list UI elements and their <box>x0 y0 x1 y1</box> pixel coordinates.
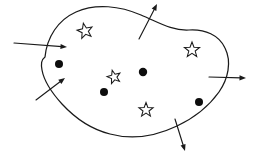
flux-arrow-outbound-right-head <box>239 75 246 80</box>
flux-arrow-inbound-lower-left <box>36 78 65 100</box>
flux-arrow-inbound-left-head <box>60 44 67 49</box>
charge-star-3 <box>107 70 120 83</box>
charge-dot-2 <box>139 68 147 76</box>
flux-arrow-inbound-lower-left-head <box>58 78 65 84</box>
charge-star-1 <box>77 23 92 38</box>
charge-star-4 <box>139 103 153 117</box>
figure-canvas <box>0 0 256 156</box>
flux-arrow-inbound-left <box>14 43 67 49</box>
charge-dot-1 <box>55 60 63 68</box>
figure-svg <box>0 0 256 156</box>
dot-charge-layer <box>55 60 203 106</box>
charge-star-2 <box>184 42 199 56</box>
star-charge-layer <box>77 23 200 116</box>
charge-dot-4 <box>195 98 203 106</box>
flux-arrow-outbound-bottom-head <box>181 144 186 151</box>
arrow-layer <box>14 4 246 151</box>
charge-dot-3 <box>100 88 108 96</box>
flux-arrow-inbound-left-shaft <box>14 43 62 47</box>
flux-arrow-outbound-top-head <box>152 4 157 11</box>
flux-arrow-inbound-lower-left-shaft <box>36 81 61 100</box>
flux-arrow-outbound-right-shaft <box>209 77 241 78</box>
flux-arrow-outbound-right <box>209 75 246 80</box>
boundary-layer <box>41 7 228 137</box>
flux-arrow-outbound-top-shaft <box>139 8 155 39</box>
gaussian-surface-boundary <box>41 7 228 137</box>
